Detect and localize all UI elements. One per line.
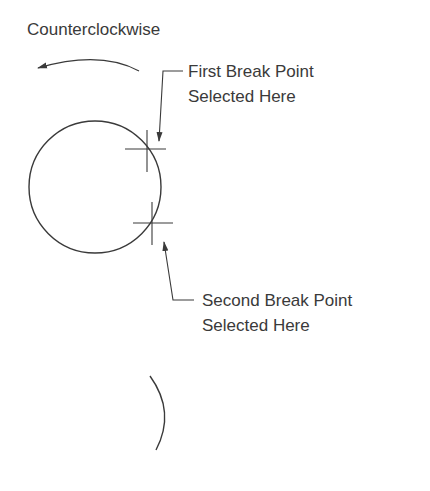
circle bbox=[29, 121, 161, 253]
direction-label: Counterclockwise bbox=[27, 20, 160, 39]
second-label-line2: Selected Here bbox=[202, 316, 310, 335]
first-leader-arrow bbox=[159, 71, 183, 141]
first-label-line2: Selected Here bbox=[188, 87, 296, 106]
second-break-cross-icon bbox=[133, 202, 173, 245]
break-point-diagram: Counterclockwise First Break Point Selec… bbox=[0, 0, 430, 491]
second-label-line1: Second Break Point bbox=[202, 291, 353, 310]
counterclockwise-arrow bbox=[38, 60, 139, 71]
arc-result bbox=[150, 376, 165, 450]
first-label-line1: First Break Point bbox=[188, 62, 314, 81]
second-leader-arrow bbox=[164, 242, 194, 300]
first-break-cross-icon bbox=[125, 130, 166, 172]
